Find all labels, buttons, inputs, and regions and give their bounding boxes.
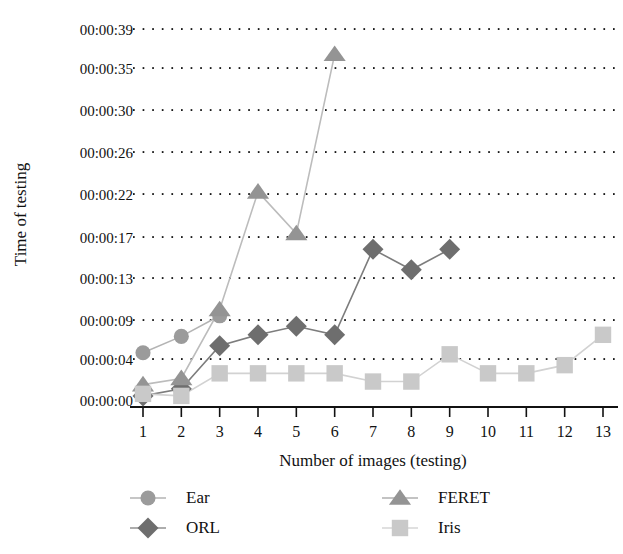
grid-dot xyxy=(373,236,375,238)
grid-dot xyxy=(152,193,154,195)
grid-dot xyxy=(383,67,385,69)
grid-dot xyxy=(584,67,586,69)
grid-dot xyxy=(133,67,135,69)
data-point-iris-5 xyxy=(288,365,304,381)
grid-dot xyxy=(171,151,173,153)
grid-dot xyxy=(479,358,481,360)
grid-dot xyxy=(527,358,529,360)
grid-dot xyxy=(229,109,231,111)
grid-dot xyxy=(565,109,567,111)
y-tick-label: 00:00:39 xyxy=(80,22,133,38)
grid-dot xyxy=(162,319,164,321)
grid-dot xyxy=(258,67,260,69)
data-point-iris-12 xyxy=(556,357,572,373)
chart-canvas: 00:00:0000:00:0400:00:0900:00:1300:00:17… xyxy=(0,0,623,554)
grid-dot xyxy=(191,319,193,321)
grid-dot xyxy=(383,236,385,238)
grid-dot xyxy=(459,109,461,111)
grid-dot xyxy=(287,358,289,360)
grid-dot xyxy=(181,67,183,69)
legend-marker-triangle-icon xyxy=(389,489,411,505)
grid-dot xyxy=(603,193,605,195)
grid-dot xyxy=(219,28,221,30)
grid-dot xyxy=(296,109,298,111)
grid-dot xyxy=(344,358,346,360)
grid-dot xyxy=(584,236,586,238)
data-point-iris-2 xyxy=(173,388,189,404)
grid-dot xyxy=(488,358,490,360)
grid-dot xyxy=(210,28,212,30)
grid-dot xyxy=(383,277,385,279)
grid-dot xyxy=(363,28,365,30)
grid-dot xyxy=(421,358,423,360)
legend-item-orl[interactable]: ORL xyxy=(130,518,220,539)
grid-dot xyxy=(325,193,327,195)
grid-dot xyxy=(344,151,346,153)
legend-layer: EarORLFERETIris xyxy=(130,488,491,539)
grid-dot xyxy=(239,28,241,30)
grid-dot xyxy=(229,193,231,195)
grid-dot xyxy=(507,67,509,69)
grid-dot xyxy=(325,277,327,279)
grid-dot xyxy=(133,236,135,238)
series-line-feret xyxy=(143,54,335,384)
grid-dot xyxy=(411,193,413,195)
data-point-orl-9 xyxy=(439,239,460,260)
grid-dot xyxy=(287,151,289,153)
grid-dot xyxy=(488,151,490,153)
grid-dot xyxy=(546,236,548,238)
grid-layer xyxy=(133,28,615,360)
grid-dot xyxy=(363,151,365,153)
grid-dot xyxy=(171,358,173,360)
grid-dot xyxy=(411,109,413,111)
grid-dot xyxy=(594,151,596,153)
grid-dot xyxy=(239,358,241,360)
grid-dot xyxy=(498,67,500,69)
grid-dot xyxy=(363,319,365,321)
grid-dot xyxy=(594,193,596,195)
grid-dot xyxy=(239,151,241,153)
grid-dot xyxy=(133,109,135,111)
grid-dot xyxy=(306,67,308,69)
grid-dot xyxy=(171,109,173,111)
grid-dot xyxy=(411,236,413,238)
grid-dot xyxy=(191,151,193,153)
grid-dot xyxy=(162,67,164,69)
grid-dot xyxy=(315,358,317,360)
grid-dot xyxy=(229,28,231,30)
grid-dot xyxy=(421,236,423,238)
grid-dot xyxy=(517,358,519,360)
grid-dot xyxy=(411,319,413,321)
grid-dot xyxy=(373,193,375,195)
grid-dot xyxy=(143,236,145,238)
legend-item-iris[interactable]: Iris xyxy=(382,518,461,537)
grid-dot xyxy=(200,236,202,238)
grid-dot xyxy=(354,319,356,321)
legend-item-feret[interactable]: FERET xyxy=(382,488,491,507)
grid-dot xyxy=(306,236,308,238)
grid-dot xyxy=(306,109,308,111)
grid-dot xyxy=(546,358,548,360)
grid-dot xyxy=(200,277,202,279)
x-tick-label: 1 xyxy=(139,423,147,440)
grid-dot xyxy=(479,109,481,111)
legend-item-ear[interactable]: Ear xyxy=(130,488,210,507)
grid-dot xyxy=(306,319,308,321)
grid-dot xyxy=(575,277,577,279)
grid-dot xyxy=(383,193,385,195)
grid-dot xyxy=(565,277,567,279)
grid-dot xyxy=(440,67,442,69)
grid-dot xyxy=(565,193,567,195)
data-point-feret-4 xyxy=(247,183,269,199)
grid-dot xyxy=(325,151,327,153)
grid-dot xyxy=(383,319,385,321)
grid-dot xyxy=(459,151,461,153)
grid-dot xyxy=(210,151,212,153)
grid-dot xyxy=(575,358,577,360)
grid-dot xyxy=(392,67,394,69)
x-tick-label: 2 xyxy=(177,423,185,440)
x-tick-label: 13 xyxy=(595,423,611,440)
grid-dot xyxy=(469,67,471,69)
grid-dot xyxy=(152,319,154,321)
grid-dot xyxy=(219,236,221,238)
